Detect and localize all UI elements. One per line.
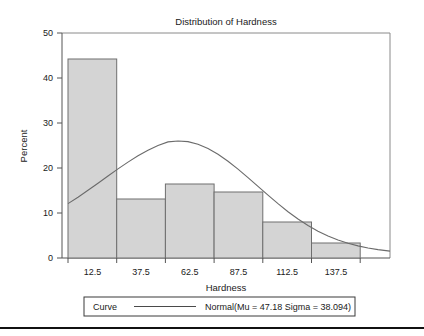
legend-series-label: Curve [93,302,117,312]
page-title: Distribution of Hardness [175,16,277,27]
x-tick-label-112.5: 112.5 [276,267,298,277]
y-tick-label-0: 0 [48,253,53,263]
histogram-bars [68,59,360,258]
legend-entry-label: Normal(Mu = 47.18 Sigma = 38.094) [205,302,351,312]
bar-bin-87.5 [214,192,263,258]
y-tick-label-50: 50 [43,28,53,38]
y-tick-label-20: 20 [43,163,53,173]
y-tick-label-40: 40 [43,73,53,83]
x-axis-ticks: 12.5 37.5 62.5 87.5 112.5 137.5 [68,258,360,277]
x-tick-label-137.5: 137.5 [325,267,348,277]
bottom-divider [0,327,424,329]
y-axis-ticks: 0 10 20 30 40 50 [43,28,62,263]
bar-bin-112.5 [263,222,312,258]
chart-legend: Curve Normal(Mu = 47.18 Sigma = 38.094) [84,297,355,316]
x-tick-label-37.5: 37.5 [132,267,150,277]
x-tick-label-12.5: 12.5 [84,267,102,277]
x-tick-label-87.5: 87.5 [230,267,248,277]
histogram-figure: Distribution of Hardness 0 10 20 30 40 5… [0,0,424,336]
y-tick-label-30: 30 [43,118,53,128]
bar-bin-62.5 [165,184,214,258]
y-axis-title: Percent [18,129,29,162]
bar-bin-12.5 [68,59,117,258]
chart-svg: Distribution of Hardness 0 10 20 30 40 5… [0,0,424,336]
y-tick-label-10: 10 [43,208,53,218]
x-tick-label-62.5: 62.5 [181,267,199,277]
bar-bin-137.5 [312,243,361,258]
bar-bin-37.5 [117,199,166,258]
x-axis-title: Hardness [206,282,247,293]
